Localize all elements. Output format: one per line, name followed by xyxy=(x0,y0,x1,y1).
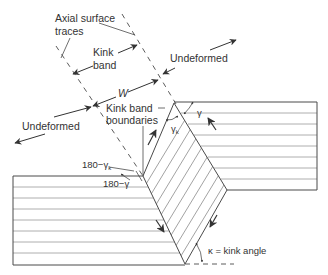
kink-band-label-line2: band xyxy=(93,59,117,71)
kink-band-boundaries-line1: Kink band xyxy=(106,102,153,114)
axial-surface-traces xyxy=(56,14,176,176)
undeformed-left-label: Undeformed xyxy=(15,107,91,143)
kink-band-label-line1: Kink xyxy=(93,46,114,58)
undeformed-right-text: Undeformed xyxy=(170,52,228,64)
undeformed-right-label: Undeformed xyxy=(163,40,236,74)
undeformed-left-text: Undeformed xyxy=(22,120,80,132)
gamma-label: γ xyxy=(197,107,202,118)
left-undeformed-block xyxy=(13,176,185,265)
kink-angle: κ = kink angle xyxy=(196,243,266,262)
kink-band-diagram: Axial surface traces Kink band W Undefor… xyxy=(0,0,328,275)
axial-surface-label-line1: Axial surface xyxy=(55,12,115,24)
gamma-k-label: γk xyxy=(171,123,180,135)
angle-180-minus-gamma-label: 180−γ xyxy=(103,178,129,189)
kink-band-boundaries-line2: boundaries xyxy=(106,114,158,126)
supplementary-angles: 180−γk 180−γ xyxy=(82,159,142,189)
axial-surface-label-line2: traces xyxy=(55,25,84,37)
angle-180-minus-gamma-k-label: 180−γk xyxy=(82,159,112,171)
kink-band-label: Kink band xyxy=(73,45,137,74)
kink-angle-label: κ = kink angle xyxy=(208,245,266,256)
width-w: W xyxy=(118,87,129,99)
